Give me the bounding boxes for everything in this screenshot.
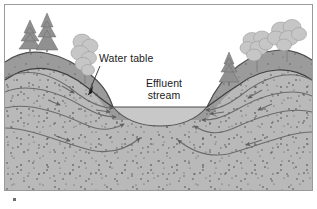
effluent-stream-label: Effluent stream [135,77,193,101]
effluent-stream-label-line1: Effluent [135,77,193,89]
water-table-label: Water table [99,52,153,64]
cross-section-illustration [0,0,317,209]
effluent-stream-label-line2: stream [135,89,193,101]
groundwater-cross-section-figure: Water table Effluent stream [0,0,317,209]
page-corner-mark [13,198,16,201]
